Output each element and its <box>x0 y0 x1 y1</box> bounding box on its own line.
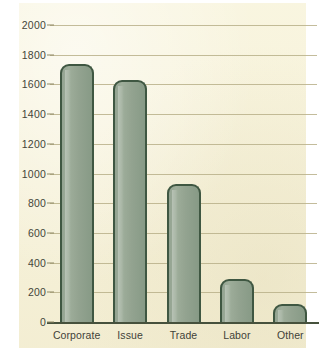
bar-other[interactable] <box>273 25 307 322</box>
y-tick-mark <box>47 322 54 323</box>
bar-rect[interactable] <box>220 279 254 322</box>
x-tick-label-issue: Issue <box>117 329 143 341</box>
scanned-page: 0200400600800100012001400160018002000 Co… <box>0 0 321 355</box>
x-tick-label-trade: Trade <box>170 329 198 341</box>
bar-trade[interactable] <box>167 25 201 322</box>
y-tick-label: 1000 <box>22 168 46 180</box>
y-axis: 0200400600800100012001400160018002000 <box>19 25 46 322</box>
x-tick-label-corporate: Corporate <box>53 329 101 341</box>
y-tick-mark <box>47 54 54 55</box>
y-tick-label: 800 <box>28 197 46 209</box>
bar-rect[interactable] <box>273 304 307 322</box>
y-tick-mark <box>47 232 54 233</box>
y-tick-mark <box>47 292 54 293</box>
y-tick-mark <box>47 173 54 174</box>
x-axis: CorporateIssueTradeLaborOther <box>50 329 321 349</box>
y-tick-mark <box>47 114 54 115</box>
y-tick-label: 1400 <box>22 108 46 120</box>
plot-area <box>50 25 317 322</box>
y-tick-label: 600 <box>28 227 46 239</box>
bar-labor[interactable] <box>220 25 254 322</box>
x-axis-line <box>47 322 319 324</box>
bar-rect[interactable] <box>113 80 147 322</box>
chart-figure: 0200400600800100012001400160018002000 Co… <box>19 3 306 348</box>
bar-issue[interactable] <box>113 25 147 322</box>
y-tick-label: 1800 <box>22 49 46 61</box>
bar-corporate[interactable] <box>60 25 94 322</box>
bar-rect[interactable] <box>60 64 94 322</box>
y-tick-mark <box>47 143 54 144</box>
y-tick-label: 200 <box>28 286 46 298</box>
y-tick-label: 0 <box>40 316 46 328</box>
y-tick-label: 1200 <box>22 138 46 150</box>
y-tick-label: 2000 <box>22 19 46 31</box>
x-tick-label-other: Other <box>277 329 304 341</box>
y-tick-mark <box>47 84 54 85</box>
bar-rect[interactable] <box>167 184 201 322</box>
y-tick-mark <box>47 203 54 204</box>
y-tick-mark <box>47 25 54 26</box>
y-tick-mark <box>47 262 54 263</box>
y-tick-label: 400 <box>28 257 46 269</box>
x-tick-label-labor: Labor <box>223 329 250 341</box>
y-tick-label: 1600 <box>22 78 46 90</box>
